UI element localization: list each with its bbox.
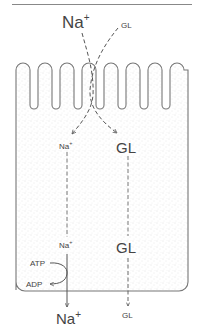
epithelial-cell-outline <box>16 63 188 291</box>
adp-label: ADP <box>26 280 42 289</box>
lumen-gl-label: GL <box>121 21 132 30</box>
exit-gl-label: GL <box>122 311 133 320</box>
exit-na-label: Na+ <box>56 309 81 327</box>
basal-gl-label: GL <box>116 239 136 256</box>
diagram-canvas: Na+ GL Na+ GL Na+ GL ATP ADP Na+ GL <box>0 0 201 336</box>
atp-label: ATP <box>30 259 45 268</box>
apical-gl-label: GL <box>116 139 136 156</box>
lumen-na-label: Na+ <box>62 12 90 32</box>
